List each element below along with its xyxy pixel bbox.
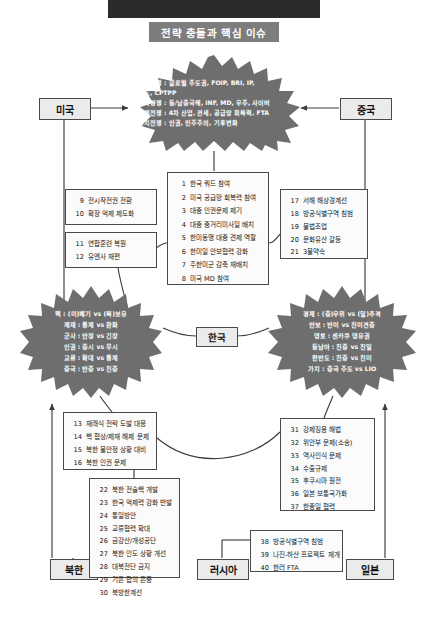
issue-text: 한러 FTA xyxy=(273,562,299,575)
issue-text: 교류협력 확대 xyxy=(112,523,150,536)
starburst-us-china-competition: 패권경쟁 : 글로벌 주도권, FOIP, BRI, IP, 쿼드, CPTPP… xyxy=(128,55,300,151)
burst-line: 핵 : (미)폐기 vs (북)보유 xyxy=(55,309,127,320)
issue-text: 불법조업 xyxy=(303,221,327,234)
issue-text: 미국 MD 참여 xyxy=(190,273,229,287)
issue-row: 28대북전단 금지 xyxy=(97,561,173,574)
burst-line: 군사경쟁 : 동/남중국해, INF, MD, 우주, 사이버 xyxy=(138,98,270,108)
issue-number: 23 xyxy=(97,497,108,510)
issue-number: 34 xyxy=(288,463,299,476)
issue-number: 16 xyxy=(71,457,82,470)
issue-text: 일본 보통국가화 xyxy=(303,488,347,501)
burst-line: 안보 : 반미 vs 친미견중 xyxy=(309,320,376,331)
issue-number: 39 xyxy=(258,549,269,562)
issue-number: 40 xyxy=(258,562,269,575)
diagram-canvas: 전략 충돌과 핵심 이슈 xyxy=(0,0,428,622)
issue-row: 39나진-하산 프로젝트 재개 xyxy=(258,549,336,562)
burst-line: 가치 : 중국 주도 vs LIO xyxy=(308,364,376,375)
issue-number: 26 xyxy=(97,535,108,548)
issue-box-korea-japan[interactable]: 31강제징용 해법32위안부 문제(소송)33역사인식 문제34수출규제35후쿠… xyxy=(280,418,375,511)
actor-label-japan[interactable]: 일본 xyxy=(346,559,394,580)
issue-row: 14핵 협상/제재 해제 문제 xyxy=(71,431,150,444)
issue-number: 20 xyxy=(288,234,299,247)
burst-line: 가치전쟁 : 인권, 민주주의, 기후변화 xyxy=(138,118,238,128)
issue-row: 16북한 인권 문제 xyxy=(71,457,150,470)
issue-row: 4대중 중거리미사일 배치 xyxy=(175,219,262,233)
issue-box-korea-nk[interactable]: 13재래식 전략 도발 대응14핵 협상/제재 해제 문제15북한 불안정 상황… xyxy=(63,412,157,470)
issue-text: 핵 협상/제재 해제 문제 xyxy=(86,431,149,444)
actor-label-russia[interactable]: 러시아 xyxy=(197,559,249,580)
starburst-us-nk-conflict: 핵 : (미)폐기 vs (북)보유 제재 : 통제 vs 완화 군사 : 안정… xyxy=(20,286,162,398)
issue-row: 23한국 억제력 강화 반발 xyxy=(97,497,173,510)
issue-number: 31 xyxy=(288,424,299,437)
actor-label-china[interactable]: 중국 xyxy=(340,98,392,120)
burst-line: 군사 : 안정 vs 긴장 xyxy=(64,331,119,342)
issue-row: 15북한 불안정 상황 대비 xyxy=(71,444,150,457)
issue-box-korea-russia[interactable]: 38방공식별구역 침범39나진-하산 프로젝트 재개40한러 FTA xyxy=(250,530,343,572)
issue-number: 17 xyxy=(288,195,299,208)
issue-text: 북한 전술핵 개발 xyxy=(112,484,158,497)
starburst-left-text: 핵 : (미)폐기 vs (북)보유 제재 : 통제 vs 완화 군사 : 안정… xyxy=(20,286,162,398)
issue-row: 6한미일 안보협력 강화 xyxy=(175,246,262,260)
issue-text: 전시작전권 전환 xyxy=(88,195,132,208)
issue-text: 후쿠시마 원전 xyxy=(303,475,341,488)
issue-text: 문화유산 갈등 xyxy=(303,234,341,247)
issue-number: 15 xyxy=(71,444,82,457)
burst-line: 경제전쟁 : 4차 산업, 관세, 공급망 회복력, FTA xyxy=(138,108,269,118)
issue-text: 방공식별구역 침범 xyxy=(273,536,323,549)
actor-label-korea[interactable]: 한국 xyxy=(196,327,238,347)
issue-number: 18 xyxy=(288,208,299,221)
issue-number: 1 xyxy=(175,178,186,192)
issue-number: 5 xyxy=(175,232,186,246)
issue-text: 대중 인권문제 제기 xyxy=(190,205,242,219)
burst-line: 제재 : 통제 vs 완화 xyxy=(64,320,119,331)
issue-row: 11연합훈련 복원 xyxy=(73,238,150,251)
issue-text: 수출규제 xyxy=(303,463,327,476)
issue-number: 35 xyxy=(288,475,299,488)
issue-box-korea-us-china[interactable]: 1한국 쿼드 참여2미국 공급망 회복력 참여3대중 인권문제 제기4대중 중거… xyxy=(167,172,269,285)
burst-line: 영토 : 센카쿠 영유권 xyxy=(314,331,371,342)
issue-text: 한국 억제력 강화 반발 xyxy=(112,497,172,510)
starburst-right-text: 경제 : (중)우위 vs (일)추격 안보 : 반미 vs 친미견중 영토 :… xyxy=(268,286,416,398)
issue-number: 14 xyxy=(71,431,82,444)
issue-number: 3 xyxy=(175,205,186,219)
issue-text: 미국 공급망 회복력 참여 xyxy=(190,192,256,206)
issue-row: 1한국 쿼드 참여 xyxy=(175,178,262,192)
actor-label-us[interactable]: 미국 xyxy=(39,98,91,120)
issue-row: 26금강산/개성공단 xyxy=(97,535,173,548)
issue-number: 2 xyxy=(175,192,186,206)
issue-text: 기존 합의 존중 xyxy=(112,574,152,587)
issue-row: 12유엔사 재편 xyxy=(73,251,150,264)
issue-number: 25 xyxy=(97,523,108,536)
issue-text: 대북전단 금지 xyxy=(112,561,150,574)
issue-box-alliance-a[interactable]: 9전시작전권 전환10확장 억제 제도화 xyxy=(65,189,157,225)
issue-text: 금강산/개성공단 xyxy=(112,535,156,548)
issue-row: 34수출규제 xyxy=(288,463,368,476)
issue-row: 17서해 해상경계선 xyxy=(288,195,361,208)
issue-number: 21 xyxy=(288,246,299,259)
issue-number: 8 xyxy=(175,273,186,287)
issue-row: 3대중 인권문제 제기 xyxy=(175,205,262,219)
page-title: 전략 충돌과 핵심 이슈 xyxy=(149,22,279,42)
issue-number: 30 xyxy=(97,587,108,600)
burst-line: 쿼드, CPTPP xyxy=(138,88,176,98)
issue-number: 27 xyxy=(97,548,108,561)
issue-box-alliance-b[interactable]: 11연합훈련 복원12유엔사 재편 xyxy=(65,232,157,268)
issue-row: 38방공식별구역 침범 xyxy=(258,536,336,549)
issue-row: 13재래식 전략 도발 대응 xyxy=(71,418,150,431)
issue-text: 재래식 전략 도발 대응 xyxy=(86,418,146,431)
issue-text: 한중일 협력 xyxy=(303,501,335,514)
issue-text: 통일방안 xyxy=(112,510,136,523)
issue-text: 북한 인도 상황 개선 xyxy=(112,548,166,561)
issue-row: 37한중일 협력 xyxy=(288,501,368,514)
burst-line: 동남아 : 친중 vs 친일 xyxy=(312,342,373,353)
issue-row: 10확장 억제 제도화 xyxy=(73,208,150,221)
issue-row: 31강제징용 해법 xyxy=(288,424,368,437)
issue-text: 한국 쿼드 참여 xyxy=(190,178,230,192)
issue-text: 확장 억제 제도화 xyxy=(88,208,134,221)
issue-row: 30북방한계선 xyxy=(97,587,173,600)
issue-box-inter-korean[interactable]: 22북한 전술핵 개발23한국 억제력 강화 반발24통일방안25교류협력 확대… xyxy=(89,478,180,578)
issue-box-korea-china[interactable]: 17서해 해상경계선18방공식별구역 침범19불법조업20문화유산 갈등213불… xyxy=(280,189,368,259)
issue-number: 38 xyxy=(258,536,269,549)
issue-text: 대중 중거리미사일 배치 xyxy=(190,219,254,233)
issue-text: 한미일 안보협력 강화 xyxy=(190,246,248,260)
